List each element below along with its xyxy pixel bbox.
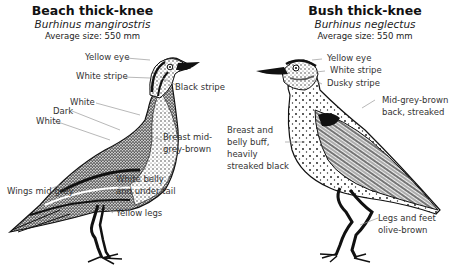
label-beach-legs: Yellow legs	[116, 208, 162, 219]
label-bush-yellow-eye: Yellow eye	[327, 53, 371, 64]
label-beach-black-stripe: Black stripe	[175, 82, 225, 93]
label-beach-belly-2: and under tail	[116, 186, 176, 197]
label-bush-legs: Legs and feet	[378, 213, 436, 224]
label-bush-breast-2: belly buff,	[227, 137, 269, 148]
label-beach-white-upper: White	[70, 97, 95, 108]
label-beach-yellow-eye: Yellow eye	[85, 52, 129, 63]
label-bush-legs-2: olive-brown	[378, 225, 428, 236]
label-bush-breast: Breast and	[227, 125, 273, 136]
label-beach-wings: Wings mid-grey	[7, 186, 74, 197]
label-beach-white-lower: White	[36, 116, 61, 127]
label-beach-breast-2: grey-brown	[163, 144, 211, 155]
label-bush-breast-3: heavily	[227, 149, 258, 160]
label-bush-breast-4: streaked black	[227, 161, 289, 172]
label-beach-belly: White belly	[116, 174, 164, 185]
label-bush-white-stripe: White stripe	[330, 65, 382, 76]
label-bush-back: Mid-grey-brown	[382, 95, 448, 106]
label-beach-white-stripe: White stripe	[76, 71, 128, 82]
label-beach-breast: Breast mid-	[163, 132, 212, 143]
label-bush-dusky-stripe: Dusky stripe	[327, 78, 380, 89]
label-bush-back-2: back, streaked	[382, 107, 444, 118]
beach-thick-knee-illustration	[10, 58, 200, 264]
